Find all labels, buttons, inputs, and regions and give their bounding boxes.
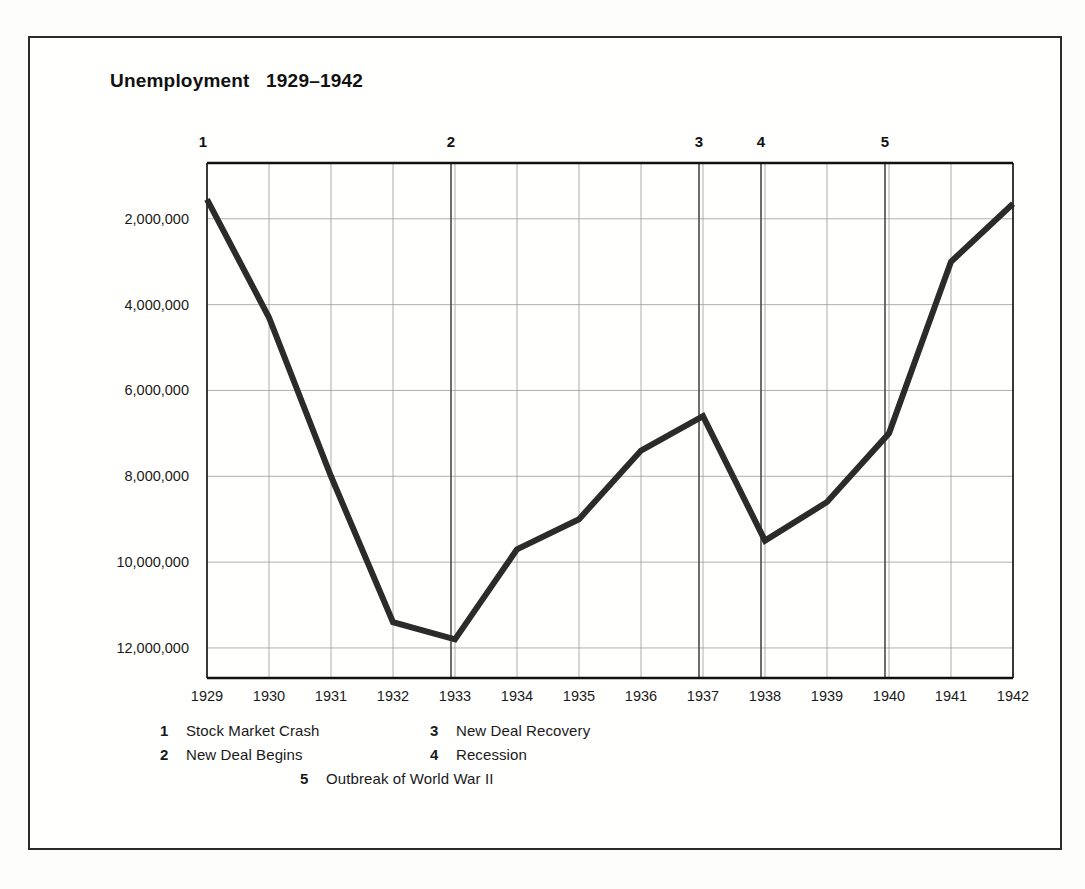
legend-item-label: Recession xyxy=(456,746,527,763)
page-title: Unemployment 1929–1942 xyxy=(110,70,363,92)
page-background: Unemployment 1929–1942 2,000,0004,000,00… xyxy=(0,0,1085,889)
legend-item-label: New Deal Begins xyxy=(186,746,303,763)
legend-item-number: 3 xyxy=(430,722,456,739)
legend-item: 2 New Deal Begins xyxy=(160,746,430,763)
legend-row: 2 New Deal Begins 4 Recession xyxy=(160,746,920,763)
legend-item-number: 4 xyxy=(430,746,456,763)
legend-item-label: Outbreak of World War II xyxy=(326,770,493,787)
chart-legend: 1 Stock Market Crash 3 New Deal Recovery… xyxy=(160,722,920,794)
legend-item: 4 Recession xyxy=(430,746,527,763)
legend-item-label: New Deal Recovery xyxy=(456,722,590,739)
legend-row: 5 Outbreak of World War II xyxy=(160,770,920,787)
legend-item-label: Stock Market Crash xyxy=(186,722,320,739)
legend-item-number: 2 xyxy=(160,746,186,763)
legend-item: 3 New Deal Recovery xyxy=(430,722,590,739)
legend-row: 1 Stock Market Crash 3 New Deal Recovery xyxy=(160,722,920,739)
legend-item: 5 Outbreak of World War II xyxy=(300,770,493,787)
legend-item-number: 1 xyxy=(160,722,186,739)
legend-item: 1 Stock Market Crash xyxy=(160,722,430,739)
legend-item-number: 5 xyxy=(300,770,326,787)
